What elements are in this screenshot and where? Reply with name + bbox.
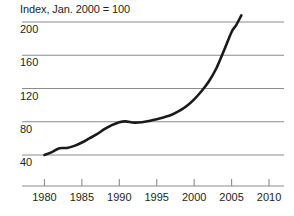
y-tick-label-200: 200 [20, 23, 38, 35]
chart-plot-area [0, 0, 294, 216]
chart-figure: Index, Jan. 2000 = 100 2001601208040 198… [0, 0, 294, 216]
data-series-line [44, 15, 241, 155]
y-tick-label-160: 160 [20, 56, 38, 68]
y-tick-label-80: 80 [20, 123, 32, 135]
y-tick-label-120: 120 [20, 90, 38, 102]
x-tick-label-1985: 1985 [70, 191, 94, 203]
x-tick-label-1990: 1990 [107, 191, 131, 203]
x-tick-label-2010: 2010 [257, 191, 281, 203]
x-tick-label-2005: 2005 [219, 191, 243, 203]
x-axis-ticks-group [44, 179, 269, 186]
x-tick-label-2000: 2000 [182, 191, 206, 203]
gridlines-group [22, 22, 284, 155]
x-tick-label-1980: 1980 [32, 191, 56, 203]
x-tick-label-1995: 1995 [144, 191, 168, 203]
y-tick-label-40: 40 [20, 156, 32, 168]
